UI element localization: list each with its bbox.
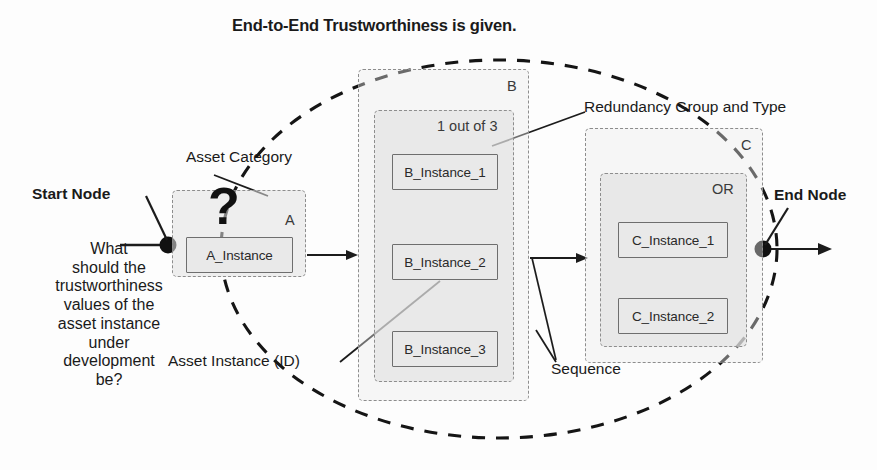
flow-arrow-a-to-b bbox=[307, 250, 358, 260]
group-c-category-tag: C bbox=[741, 137, 751, 153]
end-node-label: End Node bbox=[774, 186, 846, 203]
group-a-category-tag: A bbox=[285, 212, 295, 228]
group-b-redundancy-tag: 1 out of 3 bbox=[437, 118, 497, 134]
instance-label: C_Instance_1 bbox=[632, 233, 714, 248]
asset-instance-b-instance-2[interactable]: B_Instance_2 bbox=[392, 244, 498, 280]
instance-label: C_Instance_2 bbox=[632, 309, 714, 324]
asset-instance-b-instance-1[interactable]: B_Instance_1 bbox=[392, 154, 498, 190]
instance-label: B_Instance_2 bbox=[404, 255, 485, 270]
asset-instance-c-instance-2[interactable]: C_Instance_2 bbox=[618, 298, 728, 334]
start-node-label: Start Node bbox=[32, 185, 110, 202]
annotation-asset-instance-id: Asset Instance (ID) bbox=[168, 352, 300, 369]
asset-instance-a-instance[interactable]: A_Instance bbox=[186, 237, 293, 273]
diagram-title: End-to-End Trustworthiness is given. bbox=[232, 16, 516, 34]
leader-sequence bbox=[536, 330, 556, 362]
annotation-asset-category: Asset Category bbox=[186, 148, 292, 165]
asset-instance-c-instance-1[interactable]: C_Instance_1 bbox=[618, 222, 728, 258]
diagram-canvas: End-to-End Trustworthiness is given. Wha… bbox=[0, 0, 877, 470]
instance-label: A_Instance bbox=[206, 248, 273, 263]
instance-label: B_Instance_1 bbox=[404, 165, 485, 180]
group-b-category-tag: B bbox=[507, 78, 517, 94]
asset-instance-b-instance-3[interactable]: B_Instance_3 bbox=[392, 331, 498, 367]
flow-arrow-b-to-c bbox=[530, 253, 588, 360]
unknown-question-mark: ? bbox=[208, 180, 240, 232]
group-c-redundancy-tag: OR bbox=[712, 181, 734, 197]
flow-arrow-c-to-end bbox=[765, 243, 832, 255]
instance-label: B_Instance_3 bbox=[404, 342, 485, 357]
leader-start-node bbox=[146, 196, 167, 240]
annotation-redundancy-group-and-type: Redundancy Group and Type bbox=[584, 98, 786, 115]
leader-end-node bbox=[765, 208, 788, 245]
